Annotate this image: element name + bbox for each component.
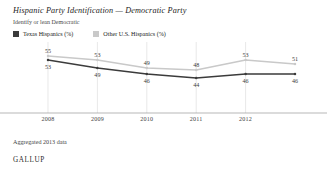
legend-swatch-icon-texas — [13, 31, 19, 37]
legend-label-other: Other U.S. Hispanics (%) — [103, 31, 165, 37]
x-axis-tick-2012: 2012 — [239, 116, 252, 122]
chart-x-axis-labels: 20082009201020112012 — [0, 116, 327, 128]
value-label: 44 — [193, 82, 199, 88]
x-axis-tick-2010: 2010 — [140, 116, 153, 122]
data-point — [96, 59, 99, 62]
x-axis-tick-2009: 2009 — [91, 116, 104, 122]
data-point — [96, 67, 99, 70]
value-label: 49 — [94, 72, 100, 78]
value-label: 46 — [144, 78, 150, 84]
data-point — [244, 73, 247, 76]
value-label: 55 — [45, 48, 51, 54]
legend-swatch-icon-other — [93, 31, 99, 37]
legend-item-other-us-hispanics: Other U.S. Hispanics (%) — [93, 31, 165, 37]
value-label: 46 — [292, 78, 298, 84]
series-line-other — [48, 56, 295, 70]
brand-wordmark: GALLUP — [13, 156, 45, 164]
chart-subtitle: Identify or lean Democratic — [13, 19, 79, 25]
data-point — [146, 67, 149, 70]
x-axis-tick-2008: 2008 — [42, 116, 55, 122]
x-axis-tick-2011: 2011 — [190, 116, 203, 122]
value-label: 53 — [243, 52, 249, 58]
data-point — [244, 59, 247, 62]
data-point — [195, 69, 198, 72]
value-label: 51 — [292, 56, 298, 62]
value-label: 46 — [243, 78, 249, 84]
gallup-chart-figure: Hispanic Party Identification — Democrat… — [0, 0, 327, 177]
value-label: 53 — [94, 52, 100, 58]
data-point — [195, 77, 198, 80]
data-point — [294, 73, 297, 76]
page-title: Hispanic Party Identification — Democrat… — [13, 6, 186, 15]
chart-footnote: Aggregated 2013 data — [13, 139, 67, 145]
chart-plot-area: 534946444646555349485351 — [0, 42, 327, 118]
legend-label-texas: Texas Hispanics (%) — [23, 31, 73, 37]
data-point — [47, 59, 50, 62]
chart-series-layer — [47, 55, 297, 80]
legend-item-texas-hispanics: Texas Hispanics (%) — [13, 31, 73, 37]
chart-svg: 534946444646555349485351 — [0, 42, 327, 118]
chart-value-labels: 534946444646555349485351 — [45, 48, 298, 88]
value-label: 53 — [45, 64, 51, 70]
value-label: 48 — [193, 62, 199, 68]
data-point — [294, 63, 297, 66]
chart-legend: Texas Hispanics (%) Other U.S. Hispanics… — [13, 31, 166, 37]
data-point — [146, 73, 149, 76]
value-label: 49 — [144, 60, 150, 66]
data-point — [47, 55, 50, 58]
